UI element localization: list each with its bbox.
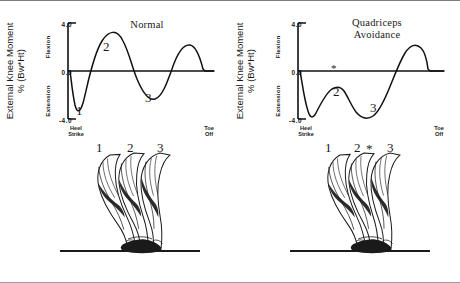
- curve-marker-1: 1: [76, 104, 83, 117]
- axis-direction-extension-right: Extension: [270, 81, 284, 121]
- limb-figures-quadriceps-avoidance: [230, 141, 460, 271]
- limb-label-3: 3: [157, 141, 164, 154]
- panel-quadriceps-avoidance: External Knee Moment % (Bw*Ht) Flexion E…: [230, 1, 460, 283]
- limb-label-2-right: 2: [354, 141, 361, 154]
- y-axis-title-right-line1: External Knee Moment: [234, 23, 245, 120]
- limb-figures-normal: [0, 141, 230, 271]
- y-axis-title-right-line2: % (Bw*Ht): [245, 49, 256, 93]
- y-axis-title: External Knee Moment % (Bw*Ht): [4, 19, 26, 123]
- limb-label-2: 2: [127, 141, 134, 154]
- plot-normal: [62, 19, 222, 127]
- limb-label-3-right: 3: [387, 141, 394, 154]
- curve-marker-2-right: 2: [333, 85, 340, 98]
- curve-marker-3: 3: [145, 91, 152, 104]
- limb-label-1: 1: [96, 141, 103, 154]
- y-axis-title-line1: External Knee Moment: [4, 23, 15, 120]
- curve-marker-3-right: 3: [370, 101, 377, 114]
- y-axis-title-right: External Knee Moment % (Bw*Ht): [234, 19, 256, 123]
- panel-normal: External Knee Moment % (Bw*Ht) Flexion E…: [0, 1, 230, 283]
- axis-direction-flexion-right: Flexion: [270, 27, 284, 67]
- y-axis-title-line2: % (Bw*Ht): [15, 49, 26, 93]
- axis-direction-extension: Extension: [40, 81, 54, 121]
- event-heel-strike-right: Heel Strike: [289, 125, 323, 138]
- axis-direction-flexion: Flexion: [40, 27, 54, 67]
- figure-frame: External Knee Moment % (Bw*Ht) Flexion E…: [0, 0, 460, 283]
- event-toe-off-right: Toe Off: [422, 125, 456, 138]
- limb-illustration-quadriceps-avoidance: 1 2 * 3: [230, 141, 460, 271]
- curve-asterisk: *: [331, 63, 337, 74]
- limb-label-1-right: 1: [325, 141, 332, 154]
- event-toe-off: Toe Off: [192, 125, 226, 138]
- limb-label-asterisk: *: [366, 142, 373, 155]
- curve-marker-2: 2: [103, 40, 110, 53]
- event-heel-strike: Heel Strike: [59, 125, 93, 138]
- limb-illustration-normal: 1 2 3: [0, 141, 230, 271]
